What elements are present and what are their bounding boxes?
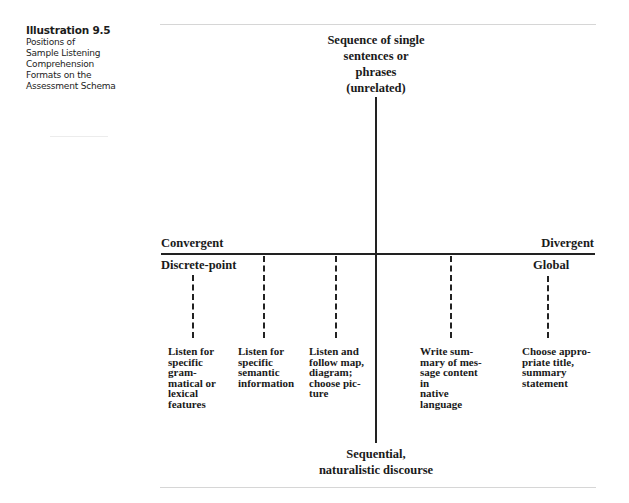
- figure-subtitle-line: Comprehension: [26, 59, 146, 70]
- format-connector-1: [192, 275, 194, 338]
- top-frame-rule: [160, 24, 596, 25]
- figure-subtitle-line: Formats on the: [26, 70, 146, 81]
- divergent-label: Divergent: [541, 236, 594, 250]
- convergent-label: Convergent: [161, 236, 224, 250]
- figure-title: Illustration 9.5: [26, 24, 146, 37]
- format-connector-3: [335, 256, 337, 338]
- format-connector-4: [450, 256, 452, 338]
- discrete-point-label: Discrete-point: [161, 258, 236, 272]
- format-label-map-diagram: Listen and follow map, diagram; choose p…: [309, 346, 364, 399]
- format-label-choose-title: Choose appro- priate title, summary stat…: [522, 346, 591, 388]
- vertical-axis-top-label: Sequence of single sentences or phrases …: [300, 32, 452, 96]
- figure-subtitle-line: Positions of: [26, 37, 146, 48]
- bottom-frame-rule: [160, 487, 596, 488]
- figure-caption: Illustration 9.5 Positions of Sample Lis…: [26, 24, 146, 92]
- vertical-axis-bottom-label: Sequential, naturalistic discourse: [290, 446, 462, 478]
- format-label-summary-native-language: Write sum- mary of mes- sage content in …: [420, 346, 482, 410]
- figure-subtitle-line: Assessment Schema: [26, 81, 146, 92]
- global-label: Global: [533, 258, 569, 272]
- figure-subtitle-line: Sample Listening: [26, 48, 146, 59]
- format-label-grammatical-lexical: Listen for specific gram- matical or lex…: [168, 346, 216, 410]
- vertical-axis-line: [375, 97, 377, 443]
- format-label-semantic-information: Listen for specific semantic information: [238, 346, 294, 388]
- horizontal-axis-line: [161, 253, 595, 255]
- caption-divider: [50, 136, 108, 137]
- format-connector-2: [263, 256, 265, 338]
- format-connector-5: [547, 276, 549, 338]
